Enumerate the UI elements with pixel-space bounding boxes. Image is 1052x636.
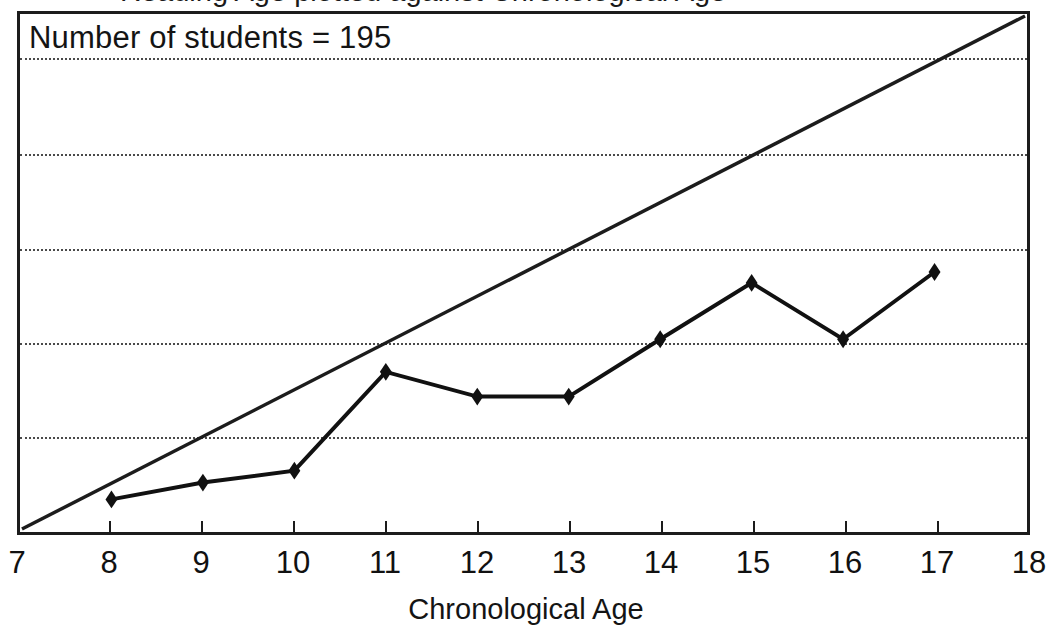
reference-line xyxy=(22,16,1025,529)
x-tick-label-8: 8 xyxy=(74,545,144,581)
x-tick-label-10: 10 xyxy=(258,545,328,581)
x-tick-mark xyxy=(845,521,847,535)
data-point-marker xyxy=(197,474,209,492)
data-point-marker xyxy=(837,330,849,348)
x-tick-label-15: 15 xyxy=(718,545,788,581)
chart-title-clipped: Reading Age plotted against Chronologica… xyxy=(120,0,920,8)
x-tick-mark xyxy=(661,521,663,535)
data-point-marker xyxy=(746,274,758,292)
data-point-marker xyxy=(654,330,666,348)
x-tick-mark xyxy=(937,521,939,535)
x-tick-mark xyxy=(201,521,203,535)
x-tick-mark xyxy=(385,521,387,535)
x-tick-mark xyxy=(293,521,295,535)
chart-figure: Reading Age plotted against Chronologica… xyxy=(0,0,1052,636)
data-point-marker xyxy=(563,388,575,406)
x-tick-mark xyxy=(753,521,755,535)
x-tick-label-9: 9 xyxy=(166,545,236,581)
x-tick-label-18: 18 xyxy=(994,545,1052,581)
x-axis-title: Chronological Age xyxy=(0,592,1052,626)
data-point-marker xyxy=(471,388,483,406)
x-tick-mark xyxy=(569,521,571,535)
x-tick-label-14: 14 xyxy=(626,545,696,581)
series-layer xyxy=(20,14,1027,532)
x-tick-label-13: 13 xyxy=(534,545,604,581)
x-tick-mark xyxy=(477,521,479,535)
x-tick-label-7: 7 xyxy=(0,545,52,581)
x-tick-label-12: 12 xyxy=(442,545,512,581)
x-tick-label-16: 16 xyxy=(810,545,880,581)
reading-age-line xyxy=(111,272,934,499)
data-point-marker xyxy=(929,263,941,281)
x-tick-mark xyxy=(109,521,111,535)
x-tick-label-17: 17 xyxy=(902,545,972,581)
x-tick-label-11: 11 xyxy=(350,545,420,581)
data-point-marker xyxy=(105,490,117,508)
plot-area: Number of students = 195 xyxy=(17,11,1030,535)
